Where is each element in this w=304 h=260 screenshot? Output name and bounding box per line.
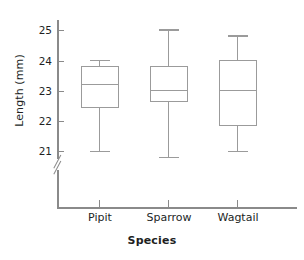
whisker-upper-sparrow xyxy=(168,29,169,65)
whisker-cap-upper-pipit xyxy=(90,60,110,61)
whisker-cap-upper-sparrow xyxy=(159,29,179,30)
x-axis-title: Species xyxy=(0,234,304,247)
box-sparrow xyxy=(150,66,188,102)
y-tick-label-22: 22 xyxy=(12,116,52,127)
x-tick-wagtail xyxy=(237,200,238,207)
median-sparrow xyxy=(150,90,188,91)
whisker-upper-wagtail xyxy=(237,35,238,59)
y-tick-24 xyxy=(58,61,64,62)
median-wagtail xyxy=(219,90,257,91)
y-tick-23 xyxy=(58,91,64,92)
y-axis-break-icon xyxy=(50,158,66,172)
whisker-lower-pipit xyxy=(99,108,100,150)
x-tick-label-wagtail: Wagtail xyxy=(193,212,283,223)
y-tick-25 xyxy=(58,30,64,31)
whisker-cap-lower-wagtail xyxy=(228,151,248,152)
y-tick-21 xyxy=(58,151,64,152)
whisker-lower-sparrow xyxy=(168,102,169,157)
whisker-lower-wagtail xyxy=(237,126,238,150)
x-tick-pipit xyxy=(99,200,100,207)
median-pipit xyxy=(81,84,119,85)
y-tick-label-23: 23 xyxy=(12,86,52,97)
whisker-cap-upper-wagtail xyxy=(228,35,248,36)
y-tick-label-21: 21 xyxy=(12,146,52,157)
box-pipit xyxy=(81,66,119,108)
y-axis-line-lower-segment xyxy=(57,170,59,208)
whisker-cap-lower-pipit xyxy=(90,151,110,152)
x-tick-sparrow xyxy=(168,200,169,207)
x-axis-line xyxy=(57,207,297,209)
whisker-cap-lower-sparrow xyxy=(159,157,179,158)
y-tick-22 xyxy=(58,121,64,122)
y-axis-line xyxy=(57,20,59,159)
box-wagtail xyxy=(219,60,257,127)
y-tick-label-24: 24 xyxy=(12,56,52,67)
y-tick-label-25: 25 xyxy=(12,25,52,36)
boxplot-chart: Length (mm) 25 24 23 22 21 Pipit Sparrow… xyxy=(0,0,304,260)
